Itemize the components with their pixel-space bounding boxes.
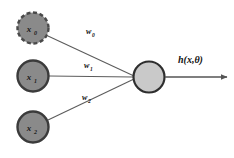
input-node-x1[interactable]: x 1 [18, 61, 49, 92]
input-node-x2-circle [18, 112, 49, 143]
weight-labels-group: w 0 w 1 w 2 [82, 27, 95, 104]
edge-x1-to-neuron [49, 76, 133, 77]
input-node-x2[interactable]: x 2 [18, 112, 49, 143]
weight-label-w2: w 2 [82, 93, 91, 104]
edge-x2-to-neuron [48, 79, 134, 120]
edges-group [48, 36, 134, 120]
weight-label-w1-subscript: 1 [90, 66, 93, 72]
weight-label-w2-subscript: 2 [87, 98, 91, 104]
output-neuron-circle [134, 62, 165, 93]
input-node-x0[interactable]: x 0 [18, 13, 49, 44]
input-node-x0-subscript: 0 [34, 30, 37, 36]
input-node-x1-subscript: 1 [34, 78, 37, 84]
input-node-x2-subscript: 2 [33, 129, 37, 135]
diagram-svg: x 0 x 1 x 2 w 0 w 1 w 2 [0, 0, 234, 158]
input-node-x0-label: x [26, 24, 32, 34]
output-label: h(x,θ) [178, 54, 203, 66]
input-node-x0-circle [18, 13, 49, 44]
neuron-diagram-canvas: x 0 x 1 x 2 w 0 w 1 w 2 [0, 0, 234, 158]
input-node-x1-circle [18, 61, 49, 92]
weight-label-w1: w 1 [84, 61, 93, 72]
weight-label-w0-subscript: 0 [92, 32, 95, 38]
weight-label-w0: w 0 [86, 27, 95, 38]
input-node-x2-label: x [26, 123, 32, 133]
input-node-x1-label: x [26, 72, 32, 82]
output-neuron-node[interactable] [134, 62, 165, 93]
